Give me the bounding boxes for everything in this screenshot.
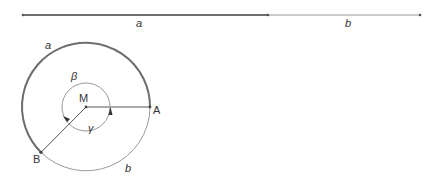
angle-gamma-label: γ xyxy=(88,122,95,134)
gamma-arrow-icon xyxy=(109,107,113,115)
segment-start-point xyxy=(22,14,25,17)
angle-beta-label: β xyxy=(70,70,78,82)
circle-figure: M A B a b β γ xyxy=(22,39,161,174)
arc-a-label: a xyxy=(45,39,51,51)
center-point xyxy=(85,106,88,109)
beta-arrow-icon xyxy=(63,116,70,122)
arc-b xyxy=(41,107,150,171)
segment-ab: a b xyxy=(22,14,422,29)
diagram: a b M A B a b β γ xyxy=(0,0,443,176)
segment-label-b: b xyxy=(345,17,351,29)
segment-label-a: a xyxy=(136,17,142,29)
segment-end-point xyxy=(419,14,422,17)
arc-b-label: b xyxy=(125,162,131,174)
center-label: M xyxy=(79,92,88,104)
point-b-label: B xyxy=(33,153,40,165)
point-a-label: A xyxy=(153,104,161,116)
point-a xyxy=(149,106,152,109)
segment-mid-point xyxy=(267,14,270,17)
